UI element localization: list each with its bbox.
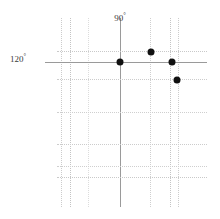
meridian-label-value: 90 [114, 13, 123, 23]
horizontal-gridline-1 [45, 62, 207, 63]
horizontal-gridline-3 [57, 112, 207, 113]
parallel-label-120: 120° [10, 53, 26, 64]
parallel-label-value: 120 [10, 54, 24, 64]
horizontal-gridline-0 [57, 51, 207, 52]
horizontal-gridline-5 [57, 166, 207, 167]
horizontal-gridline-6 [57, 177, 207, 178]
data-point[interactable] [169, 59, 176, 66]
meridian-label-90: 90° [114, 12, 126, 23]
horizontal-gridline-4 [57, 144, 207, 145]
horizontal-gridline-2 [57, 79, 207, 80]
data-point[interactable] [174, 77, 181, 84]
data-point[interactable] [117, 59, 124, 66]
data-point[interactable] [148, 49, 155, 56]
degree-symbol-icon: ° [123, 11, 126, 18]
sky-chart: 90° 120° [0, 0, 220, 219]
plot-area: 90° 120° [0, 0, 220, 219]
degree-symbol-icon: ° [24, 52, 27, 59]
